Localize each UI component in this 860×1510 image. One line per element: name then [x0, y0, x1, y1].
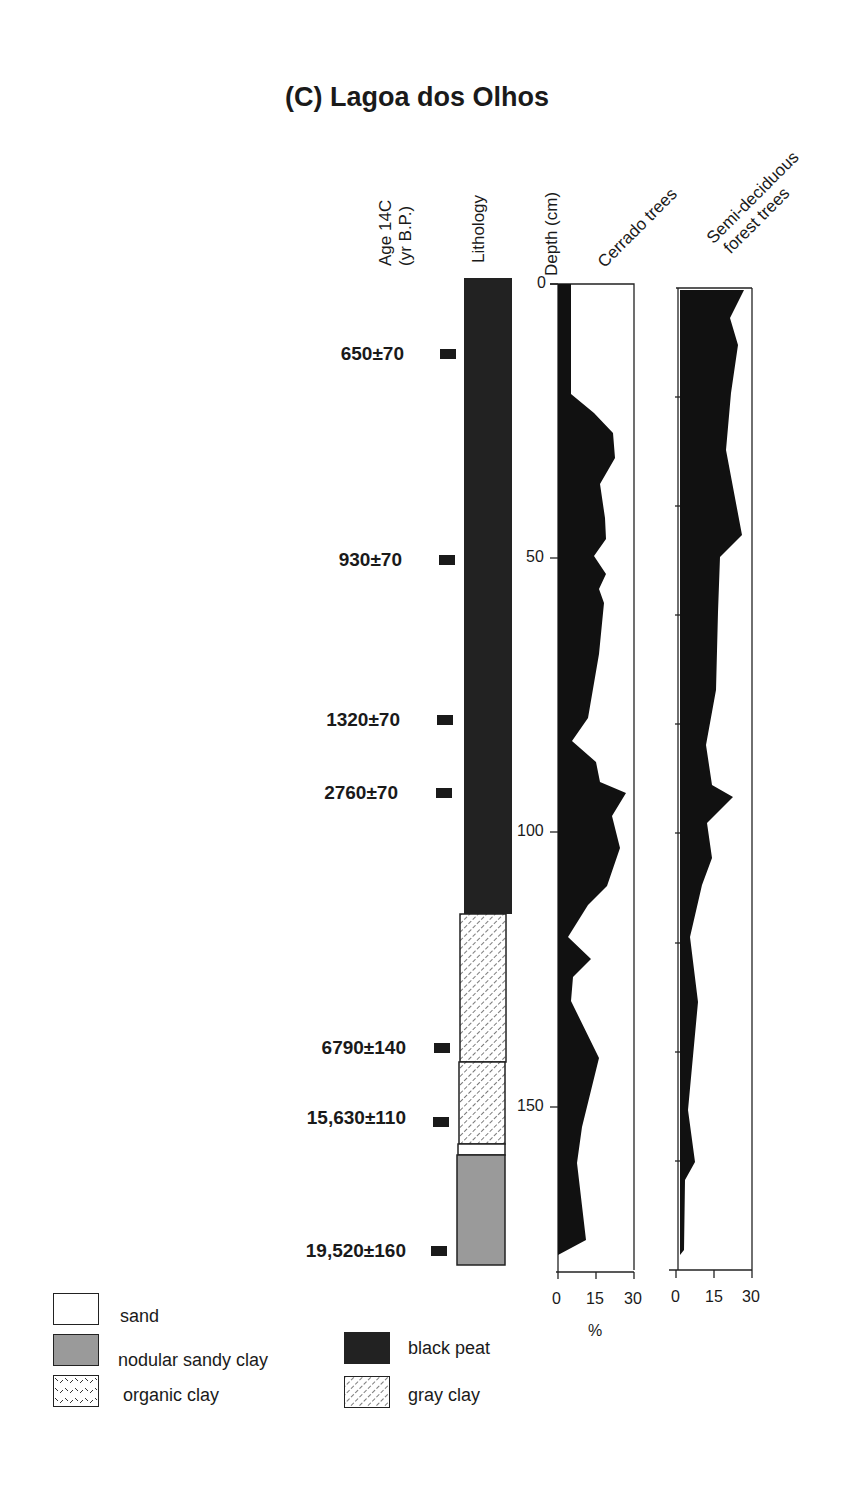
litho-sand [458, 1144, 505, 1155]
age-label: 2760±70 [248, 782, 398, 804]
legend-label: gray clay [408, 1385, 480, 1406]
depth-tick: 0 [537, 274, 546, 292]
cerrado-x-tick: 15 [586, 1290, 604, 1308]
legend-swatch-nodular-sandy-clay [53, 1334, 99, 1366]
lithology-column [457, 278, 512, 1265]
semi-x-tick: 0 [671, 1288, 680, 1306]
age-label: 930±70 [252, 549, 402, 571]
legend-label: nodular sandy clay [118, 1350, 268, 1371]
litho-gray-clay-upper [460, 914, 506, 1062]
legend-swatch-organic-clay [53, 1375, 99, 1407]
legend-swatch-sand [53, 1293, 99, 1325]
legend-swatch-black-peat [344, 1332, 390, 1364]
cerrado-x-tick: 30 [624, 1290, 642, 1308]
legend-label: black peat [408, 1338, 490, 1359]
depth-tick: 150 [517, 1097, 544, 1115]
litho-black-peat [464, 278, 512, 914]
legend-swatch-gray-clay [344, 1376, 390, 1408]
semideciduous-panel [669, 288, 752, 1278]
age-label: 650±70 [254, 343, 404, 365]
diagram-graphics [0, 0, 860, 1510]
litho-gray-clay-lower [459, 1062, 505, 1144]
age-markers [431, 349, 456, 1256]
age-label: 6790±140 [256, 1037, 406, 1059]
legend-label: organic clay [123, 1385, 219, 1406]
age-label: 19,520±160 [256, 1240, 406, 1262]
cerrado-x-tick: 0 [552, 1290, 561, 1308]
depth-tick: 50 [526, 548, 544, 566]
age-label: 1320±70 [250, 709, 400, 731]
semi-x-tick: 15 [705, 1288, 723, 1306]
semideciduous-curve [680, 290, 744, 1255]
age-label: 15,630±110 [256, 1107, 406, 1129]
depth-tick: 100 [517, 822, 544, 840]
litho-nodular-sandy-clay [457, 1155, 505, 1265]
semi-x-tick: 30 [742, 1288, 760, 1306]
cerrado-curve [558, 284, 626, 1255]
legend-label: sand [120, 1306, 159, 1327]
x-unit: % [588, 1322, 602, 1340]
cerrado-panel [550, 284, 634, 1279]
